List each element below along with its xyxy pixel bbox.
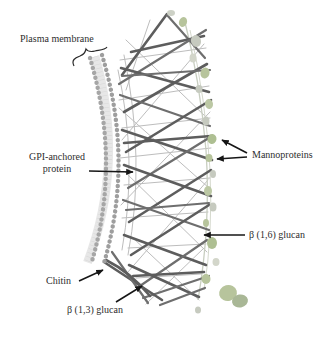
arrow-gpi-anchored-protein <box>89 171 133 172</box>
gpi-anchored-protein-label: GPI-anchored protein <box>22 151 92 175</box>
arrow-mannoproteins-lower <box>217 157 247 159</box>
arrow-mannoproteins-upper <box>222 140 247 153</box>
plasma-membrane-bilayer <box>88 55 119 263</box>
mannoproteins-label: Mannoproteins <box>252 149 313 161</box>
arrow-beta-1-3-glucan <box>116 286 142 302</box>
chitin-label: Chitin <box>46 275 71 287</box>
plasma-membrane-label: Plasma membrane <box>20 33 94 45</box>
fungal-cell-wall-figure: Plasma membrane GPI-anchored protein Man… <box>0 0 336 337</box>
beta-1-6-glucan-label: β (1,6) glucan <box>249 229 305 241</box>
gpi-label-line2: protein <box>22 163 92 175</box>
gpi-label-line1: GPI-anchored <box>22 151 92 163</box>
beta-1-3-glucan-label: β (1,3) glucan <box>67 304 123 316</box>
arrow-chitin <box>79 270 103 281</box>
